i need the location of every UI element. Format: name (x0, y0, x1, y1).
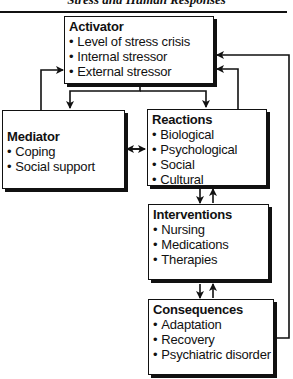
activator-item: Internal stressor (69, 49, 209, 64)
reactions-item: Cultural (152, 172, 262, 187)
activator-title: Activator (69, 19, 209, 34)
consequences-box: Consequences Adaptation Recovery Psychia… (148, 299, 274, 375)
reactions-item: Psychological (152, 142, 262, 157)
activator-item: External stressor (69, 64, 209, 79)
mediator-item: Coping (7, 144, 120, 159)
consequences-title: Consequences (153, 302, 269, 317)
reactions-box: Reactions Biological Psychological Socia… (147, 109, 267, 186)
interventions-item: Medications (153, 237, 264, 252)
interventions-box: Interventions Nursing Medications Therap… (148, 204, 269, 280)
consequences-item: Psychiatric disorder (153, 347, 269, 362)
activator-box: Activator Level of stress crisis Interna… (64, 16, 214, 84)
consequences-item: Adaptation (153, 317, 269, 332)
mediator-title: Mediator (7, 129, 120, 144)
reactions-title: Reactions (152, 112, 262, 127)
interventions-title: Interventions (153, 207, 264, 222)
consequences-item: Recovery (153, 332, 269, 347)
mediator-item: Social support (7, 159, 120, 174)
mediator-box: Mediator Coping Social support (2, 110, 125, 189)
reactions-item: Biological (152, 127, 262, 142)
interventions-item: Therapies (153, 252, 264, 267)
interventions-item: Nursing (153, 222, 264, 237)
activator-item: Level of stress crisis (69, 34, 209, 49)
reactions-item: Social (152, 157, 262, 172)
